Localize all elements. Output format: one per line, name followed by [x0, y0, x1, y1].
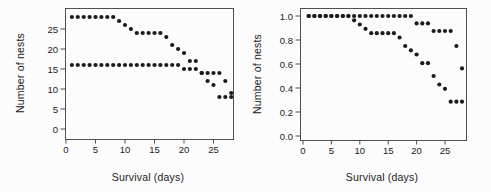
group-1-nests [70, 15, 233, 99]
data-point [380, 31, 384, 35]
data-point [312, 14, 316, 18]
data-point [135, 63, 139, 67]
x-tick-label: 10 [120, 144, 131, 155]
data-point [375, 14, 379, 18]
data-point [99, 15, 103, 19]
data-point [88, 15, 92, 19]
data-point [358, 22, 362, 26]
nest-survival-figure: 0510152025051015202505101520250.00.20.40… [0, 0, 491, 192]
data-point [152, 31, 156, 35]
data-point [449, 100, 453, 104]
y-tick-label: 15 [47, 64, 58, 75]
x-tick-label: 0 [300, 145, 305, 156]
nest-count-chart: 05101520250510152025 [47, 9, 233, 156]
data-point [409, 14, 413, 18]
data-point [380, 14, 384, 18]
data-point [158, 31, 162, 35]
data-point [392, 14, 396, 18]
data-point [206, 79, 210, 83]
y-tick-label: 0 [53, 124, 58, 135]
data-point [460, 66, 464, 70]
x-tick-label: 20 [411, 145, 422, 156]
y-tick-label: 10 [47, 84, 58, 95]
data-point [147, 31, 151, 35]
data-point [223, 79, 227, 83]
data-point [82, 63, 86, 67]
data-point [211, 83, 215, 87]
data-point [170, 63, 174, 67]
data-point [229, 95, 233, 99]
data-point [105, 63, 109, 67]
x-tick-label: 5 [329, 145, 334, 156]
data-point [217, 71, 221, 75]
data-point [403, 14, 407, 18]
data-point [111, 15, 115, 19]
data-point [460, 100, 464, 104]
data-point [454, 44, 458, 48]
x-tick-label: 15 [383, 145, 394, 156]
data-point [398, 35, 402, 39]
data-point [117, 19, 121, 23]
data-point [129, 27, 133, 31]
data-point [341, 14, 345, 18]
data-point [194, 59, 198, 63]
data-point [363, 14, 367, 18]
plot-box [301, 9, 467, 141]
nest-proportion-chart: 05101520250.00.20.40.60.81.0 [280, 9, 467, 157]
right-chart-x-axis-label: Survival (days) [346, 171, 418, 183]
data-point [426, 21, 430, 25]
data-point [346, 14, 350, 18]
data-point [105, 15, 109, 19]
data-point [437, 82, 441, 86]
data-point [307, 14, 311, 18]
data-point [176, 47, 180, 51]
data-point [223, 95, 227, 99]
data-point [206, 71, 210, 75]
y-tick-label: 0.0 [280, 131, 293, 142]
data-point [135, 31, 139, 35]
data-point [164, 35, 168, 39]
data-point [415, 21, 419, 25]
data-point [369, 31, 373, 35]
y-tick-label: 0.8 [280, 35, 293, 46]
data-point [229, 91, 233, 95]
data-point [152, 63, 156, 67]
x-tick-label: 25 [440, 145, 451, 156]
group-2-nests [70, 63, 233, 95]
data-point [363, 27, 367, 31]
x-tick-label: 0 [63, 144, 68, 155]
right-chart-y-axis-label: Number of nests [251, 34, 263, 114]
data-point [211, 71, 215, 75]
data-point [352, 14, 356, 18]
data-point [449, 29, 453, 33]
data-point [318, 14, 322, 18]
x-tick-label: 15 [149, 144, 160, 155]
data-point [386, 31, 390, 35]
data-point [200, 71, 204, 75]
data-point [93, 63, 97, 67]
y-tick-label: 25 [47, 24, 58, 35]
data-point [117, 63, 121, 67]
data-point [164, 63, 168, 67]
data-point [386, 14, 390, 18]
data-point [141, 63, 145, 67]
data-point [123, 63, 127, 67]
y-tick-label: 0.2 [280, 107, 293, 118]
data-point [188, 59, 192, 63]
data-point [335, 14, 339, 18]
y-tick-label: 20 [47, 44, 58, 55]
data-point [329, 14, 333, 18]
data-point [437, 29, 441, 33]
data-point [443, 87, 447, 91]
left-chart-y-axis-label: Number of nests [14, 33, 26, 113]
data-point [141, 31, 145, 35]
data-point [170, 43, 174, 47]
data-point [70, 63, 74, 67]
data-point [217, 95, 221, 99]
data-point [403, 44, 407, 48]
data-point [392, 31, 396, 35]
x-tick-label: 20 [179, 144, 190, 155]
data-point [432, 74, 436, 78]
left-chart-x-axis-label: Survival (days) [112, 171, 184, 183]
data-point [88, 63, 92, 67]
